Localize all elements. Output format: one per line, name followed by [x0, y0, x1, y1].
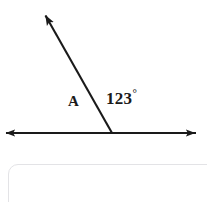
- angle-label-a: A: [68, 94, 79, 109]
- upper-ray: [46, 15, 113, 133]
- angle-measure-label: 123°: [106, 90, 137, 107]
- angle-measure-value: 123: [106, 89, 132, 108]
- angle-diagram-figure: A 123°: [0, 0, 207, 202]
- degree-symbol-icon: °: [132, 87, 137, 99]
- bottom-panel-frame: [8, 164, 207, 202]
